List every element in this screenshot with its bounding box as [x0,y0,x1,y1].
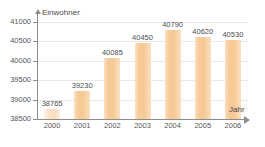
bar [195,37,211,119]
y-axis-tick-label: 39500 [2,75,31,84]
bar-value-label: 39230 [65,81,99,90]
bar [74,91,90,119]
y-axis-tick [33,80,38,81]
y-axis-title: Einwohner [42,8,80,17]
x-axis-tick-label: 2006 [218,121,248,130]
y-axis-tick-label: 40500 [2,36,31,45]
x-axis-title: Jahr [229,105,245,114]
y-axis-tick-label: 39000 [2,95,31,104]
bar-value-label: 40530 [216,30,250,39]
bar [104,58,120,120]
bar-value-label: 40620 [186,27,220,36]
gridline [37,22,248,23]
y-axis-tick [33,22,38,23]
y-axis-tick-label: 38500 [2,114,31,123]
y-axis-tick-label: 41000 [2,17,31,26]
bar [165,30,181,119]
x-axis-tick-label: 2004 [158,121,188,130]
y-axis-tick [33,61,38,62]
bar [44,109,60,119]
x-axis-line [37,119,245,120]
y-axis-tick [33,119,38,120]
y-axis-tick [33,41,38,42]
bar-chart: Einwohner Jahr 3850039000395004000040500… [0,0,265,147]
bar [135,43,151,119]
y-axis-tick-label: 40000 [2,56,31,65]
bar-value-label: 40085 [95,48,129,57]
x-axis-tick-label: 2001 [67,121,97,130]
x-axis-tick-label: 2000 [37,121,67,130]
x-axis-tick-label: 2002 [97,121,127,130]
bar-value-label: 38765 [35,99,69,108]
bar-value-label: 40450 [126,33,160,42]
y-axis-arrow-icon [35,9,41,14]
bar-value-label: 40790 [156,20,190,29]
x-axis-tick-label: 2005 [188,121,218,130]
x-axis-tick-label: 2003 [128,121,158,130]
